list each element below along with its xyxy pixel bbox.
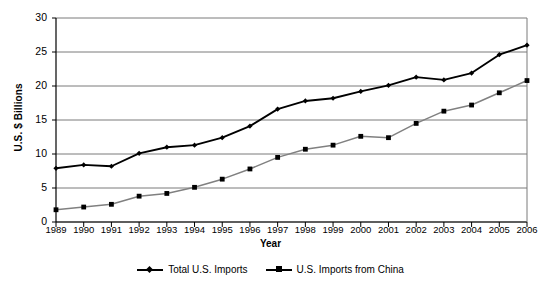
- diamond-marker-icon: [137, 265, 163, 275]
- y-tick-label: 5: [25, 181, 47, 193]
- data-point: [81, 205, 86, 210]
- data-point: [137, 194, 142, 199]
- data-point: [386, 83, 391, 88]
- data-point: [164, 191, 169, 196]
- y-tick-label: 25: [25, 45, 47, 57]
- data-point: [81, 162, 86, 167]
- data-point: [54, 207, 59, 212]
- data-point: [414, 75, 419, 80]
- data-point: [303, 98, 308, 103]
- data-point: [524, 43, 529, 48]
- data-point: [331, 143, 336, 148]
- data-point: [220, 135, 225, 140]
- line-chart: U.S. $ Billions Year Total U.S. Imports …: [0, 0, 541, 292]
- data-point: [497, 90, 502, 95]
- chart-legend: Total U.S. Imports U.S. Imports from Chi…: [0, 264, 541, 275]
- y-tick-label: 20: [25, 79, 47, 91]
- data-point: [469, 103, 474, 108]
- series-line-china: [56, 81, 527, 210]
- legend-label-china: U.S. Imports from China: [297, 264, 404, 275]
- data-point: [358, 89, 363, 94]
- data-point: [192, 143, 197, 148]
- x-axis-title: Year: [0, 238, 541, 249]
- data-point: [441, 77, 446, 82]
- data-point: [275, 155, 280, 160]
- data-point: [53, 166, 58, 171]
- square-marker-icon: [266, 265, 292, 275]
- y-tick-label: 10: [25, 147, 47, 159]
- data-point: [192, 185, 197, 190]
- y-tick-label: 15: [25, 113, 47, 125]
- data-point: [525, 78, 530, 83]
- legend-label-total: Total U.S. Imports: [168, 264, 247, 275]
- y-axis-title: U.S. $ Billions: [13, 48, 24, 188]
- data-point: [330, 96, 335, 101]
- data-point: [109, 202, 114, 207]
- legend-item-total-us-imports: Total U.S. Imports: [137, 264, 247, 275]
- data-point: [303, 147, 308, 152]
- data-point: [386, 135, 391, 140]
- data-point: [248, 167, 253, 172]
- y-tick-label: 30: [25, 11, 47, 23]
- data-point: [414, 121, 419, 126]
- data-point: [164, 145, 169, 150]
- data-point: [220, 177, 225, 182]
- data-point: [358, 134, 363, 139]
- series-line-total: [56, 45, 527, 168]
- legend-item-us-imports-from-china: U.S. Imports from China: [266, 264, 404, 275]
- x-tick-label: 2006: [510, 224, 541, 235]
- data-point: [441, 109, 446, 114]
